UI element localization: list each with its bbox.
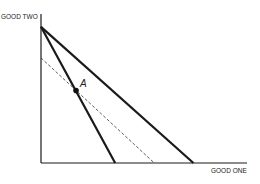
- x-axis-label: GOOD ONE: [211, 167, 247, 174]
- budget-line-dashed: [41, 58, 154, 163]
- budget-line-flat: [41, 27, 193, 163]
- point-a-marker: [73, 88, 79, 94]
- point-a-label: A: [79, 78, 87, 89]
- y-axis-label: GOOD TWO: [1, 13, 38, 20]
- diagram: GOOD TWO GOOD ONE A: [0, 0, 260, 184]
- budget-line-steep: [41, 27, 115, 163]
